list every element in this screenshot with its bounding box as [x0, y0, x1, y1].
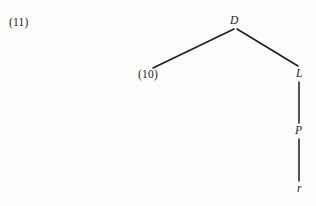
- tree-node-reference-10: (10): [138, 69, 158, 81]
- syntax-tree-figure: (11) D (10) L P r: [0, 0, 316, 206]
- tree-node-p: P: [295, 125, 302, 137]
- edge-root-to-l: [237, 29, 298, 66]
- edge-root-to-ref10: [153, 29, 234, 68]
- example-number: (11): [9, 17, 29, 29]
- tree-node-r: r: [297, 183, 301, 195]
- tree-branch-lines: [0, 0, 316, 206]
- tree-node-root-d: D: [230, 15, 238, 27]
- tree-node-l: L: [296, 68, 302, 80]
